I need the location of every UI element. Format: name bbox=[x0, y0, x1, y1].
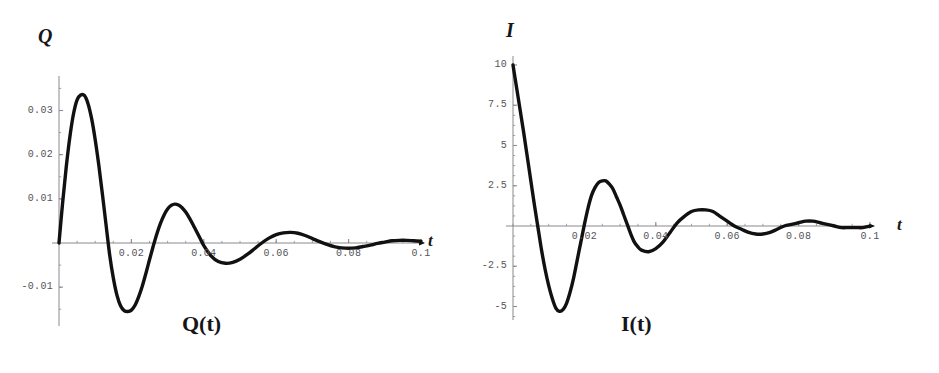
y-tick-label: -5 bbox=[455, 302, 507, 312]
y-tick-label: -0.01 bbox=[1, 282, 53, 292]
plot-canvas-q bbox=[0, 0, 469, 373]
plot-panel-q: Q t Q(t) 0.020.040.060.080.10.030.020.01… bbox=[0, 0, 469, 373]
y-tick-label: -2.5 bbox=[455, 261, 507, 271]
x-tick-label: 0.02 bbox=[111, 249, 151, 259]
y-tick-label: 2.5 bbox=[455, 181, 507, 191]
plot-area-q bbox=[0, 0, 469, 373]
x-tick-label: 0.06 bbox=[256, 249, 296, 259]
x-tick-label: 0.08 bbox=[329, 249, 369, 259]
x-tick-label: 0.1 bbox=[401, 249, 441, 259]
x-tick-label: 0.1 bbox=[850, 232, 890, 242]
x-tick-label: 0.04 bbox=[636, 232, 676, 242]
caption-i: I(t) bbox=[621, 313, 652, 335]
data-curve bbox=[59, 94, 421, 311]
y-tick-label: 0.03 bbox=[1, 106, 53, 116]
x-tick-label: 0.06 bbox=[707, 232, 747, 242]
two-panel-plot-figure: Q t Q(t) 0.020.040.060.080.10.030.020.01… bbox=[0, 0, 939, 373]
data-curve bbox=[513, 65, 870, 311]
x-axis-label-q: t bbox=[428, 232, 433, 249]
caption-q: Q(t) bbox=[182, 313, 221, 335]
x-tick-label: 0.02 bbox=[564, 232, 604, 242]
y-tick-label: 7.5 bbox=[455, 100, 507, 110]
x-tick-label: 0.08 bbox=[779, 232, 819, 242]
plot-panel-i: I t I(t) 0.020.040.060.080.1107.552.5-2.… bbox=[470, 0, 939, 373]
y-tick-label: 0.02 bbox=[1, 150, 53, 160]
y-axis-label-q: Q bbox=[38, 26, 52, 46]
y-tick-label: 0.01 bbox=[1, 194, 53, 204]
x-tick-label: 0.04 bbox=[184, 249, 224, 259]
plot-area-i bbox=[470, 0, 939, 373]
y-tick-label: 5 bbox=[455, 141, 507, 151]
y-axis-label-i: I bbox=[506, 20, 514, 40]
y-tick-label: 10 bbox=[455, 60, 507, 70]
plot-canvas-i bbox=[470, 0, 939, 373]
x-axis-label-i: t bbox=[897, 216, 902, 233]
